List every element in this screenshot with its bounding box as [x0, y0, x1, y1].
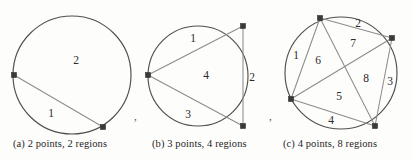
region-label-c-1: 1: [293, 49, 299, 61]
panel-separator-1: ,: [134, 110, 137, 122]
vertex-c-3: [288, 96, 293, 101]
region-label-c-4: 4: [328, 114, 334, 126]
circle-outline-b: [148, 26, 248, 126]
caption-panel-c: (c) 4 points, 8 regions: [283, 138, 377, 149]
vertex-c-2: [389, 35, 394, 40]
chord-a-1: [14, 75, 103, 127]
region-label-b-3: 3: [185, 108, 191, 120]
region-label-c-5: 5: [336, 90, 342, 102]
panel-a-group: 2 1: [11, 16, 131, 134]
region-label-c-6: 6: [315, 54, 321, 66]
vertex-b-2: [240, 23, 245, 28]
chord-b-3: [148, 75, 243, 126]
region-label-b-2: 2: [249, 71, 255, 83]
panel-b-group: 1 2 3 4: [145, 23, 255, 128]
region-label-c-3: 3: [387, 75, 393, 87]
region-label-a-1: 1: [48, 107, 54, 119]
region-label-c-7: 7: [350, 37, 356, 49]
caption-panel-b: (b) 3 points, 4 regions: [152, 138, 247, 149]
vertex-b-3: [240, 123, 245, 128]
panel-separator-2: ,: [269, 110, 272, 122]
region-label-b-1: 1: [190, 32, 196, 44]
region-label-b-4: 4: [203, 69, 209, 81]
panel-c-group: 1 2 3 4 5 6 7 8: [285, 15, 397, 129]
vertex-b-1: [145, 72, 150, 77]
region-label-a-2: 2: [73, 54, 79, 66]
circles-diagram: 2 1 1 2 3 4: [0, 0, 412, 159]
vertex-a-2: [100, 124, 105, 129]
figure-canvas: 2 1 1 2 3 4: [0, 0, 412, 159]
vertex-c-4: [372, 123, 377, 128]
region-label-c-8: 8: [363, 72, 369, 84]
vertex-a-1: [11, 72, 16, 77]
vertex-c-1: [317, 15, 322, 20]
circle-outline-c: [285, 17, 397, 129]
region-label-c-2: 2: [355, 17, 361, 29]
caption-panel-a: (a) 2 points, 2 regions: [13, 138, 107, 149]
circle-outline-a: [13, 16, 131, 134]
